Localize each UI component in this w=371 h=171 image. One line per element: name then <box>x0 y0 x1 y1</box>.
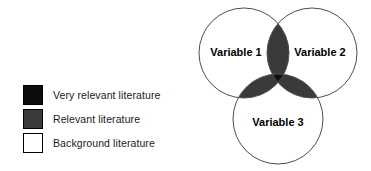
swatch-background-icon <box>23 133 43 153</box>
legend-item-relevant: Relevant literature <box>23 107 198 131</box>
venn-diagram: Variable 1 Variable 2 Variable 3 <box>196 4 366 170</box>
legend: Very relevant literature Relevant litera… <box>23 83 198 155</box>
label-variable-2: Variable 2 <box>294 46 345 58</box>
swatch-relevant-icon <box>23 109 43 129</box>
figure-root: Very relevant literature Relevant litera… <box>0 0 371 171</box>
legend-label-relevant: Relevant literature <box>53 114 140 125</box>
legend-item-background: Background literature <box>23 131 198 155</box>
legend-item-very-relevant: Very relevant literature <box>23 83 198 107</box>
swatch-very-relevant-icon <box>23 85 43 105</box>
legend-label-very-relevant: Very relevant literature <box>53 90 160 101</box>
legend-label-background: Background literature <box>53 138 155 149</box>
label-variable-1: Variable 1 <box>210 46 261 58</box>
label-variable-3: Variable 3 <box>252 116 303 128</box>
